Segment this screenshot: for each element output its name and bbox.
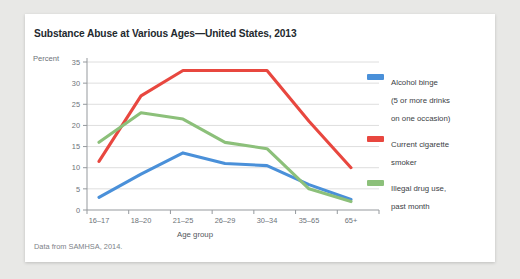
legend-color-swatch	[367, 180, 384, 186]
svg-text:20: 20	[72, 121, 80, 130]
svg-text:30–34: 30–34	[257, 216, 278, 225]
source-note: Data from SAMHSA, 2014.	[34, 242, 122, 251]
y-axis-tick-labels: 05101520253035	[72, 58, 80, 215]
legend-item-label: Illegal drug use, past month	[391, 184, 446, 211]
x-axis-tick-marks	[87, 210, 379, 214]
svg-text:15: 15	[72, 142, 80, 151]
svg-text:65+: 65+	[345, 216, 358, 225]
x-axis-title: Age group	[25, 230, 365, 239]
gridlines	[87, 62, 379, 189]
legend: Alcohol binge (5 or more drinks on one o…	[367, 71, 491, 221]
svg-text:25: 25	[72, 100, 80, 109]
svg-text:0: 0	[76, 206, 80, 215]
svg-text:5: 5	[76, 185, 80, 194]
legend-item[interactable]: Current cigarette smoker	[367, 133, 491, 169]
svg-text:35–65: 35–65	[299, 216, 320, 225]
y-axis-tick-marks	[83, 62, 87, 210]
figure-card: Substance Abuse at Various Ages—United S…	[25, 14, 495, 262]
x-axis-tick-labels: 16–1718–2021–2526–2930–3435–6565+	[89, 216, 358, 225]
svg-text:18–20: 18–20	[131, 216, 152, 225]
legend-item-label: Alcohol binge (5 or more drinks on one o…	[391, 78, 450, 123]
legend-item-label: Current cigarette smoker	[391, 140, 449, 167]
legend-color-swatch	[367, 74, 384, 80]
series-lines	[99, 70, 351, 201]
legend-item[interactable]: Illegal drug use, past month	[367, 177, 491, 213]
svg-text:30: 30	[72, 79, 80, 88]
svg-text:10: 10	[72, 163, 80, 172]
legend-color-swatch	[367, 136, 384, 142]
svg-text:16–17: 16–17	[89, 216, 110, 225]
svg-text:35: 35	[72, 58, 80, 67]
figure-screenshot: Substance Abuse at Various Ages—United S…	[0, 0, 520, 279]
legend-item[interactable]: Alcohol binge (5 or more drinks on one o…	[367, 71, 491, 125]
svg-text:21–25: 21–25	[173, 216, 194, 225]
svg-text:26–29: 26–29	[215, 216, 236, 225]
